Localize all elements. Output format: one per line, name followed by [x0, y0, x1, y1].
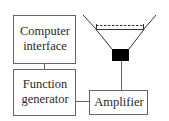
- speaker-magnet: [112, 49, 129, 61]
- computer-interface-label: Computer interface: [14, 24, 76, 54]
- function-generator-label: Function generator: [14, 77, 76, 107]
- amplifier-line-1: Amplifier: [90, 95, 148, 110]
- amplifier-label: Amplifier: [90, 95, 148, 110]
- computer-interface-line-1: Computer: [14, 24, 76, 39]
- function-generator-line-2: generator: [14, 92, 76, 107]
- speaker-cone-icon: [83, 15, 156, 61]
- function-generator-line-1: Function: [14, 77, 76, 92]
- computer-interface-line-2: interface: [14, 39, 76, 54]
